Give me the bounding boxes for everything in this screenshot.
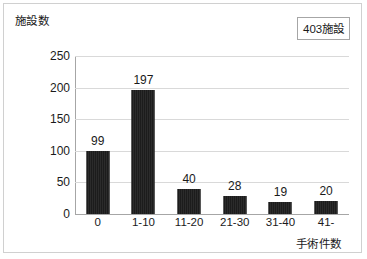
y-axis-tick-label: 0 [30,207,70,221]
chart-frame: 施設数 403施設 050100150200250 9919740281920 … [3,3,362,253]
bar[interactable] [132,90,155,215]
bar-value-label: 99 [91,134,104,148]
bar-value-label: 19 [274,185,287,199]
gridline [75,214,349,215]
bar-slot: 20 [303,56,349,214]
bar[interactable] [315,201,338,214]
plot-area: 9919740281920 [75,56,349,214]
x-axis-title: 手術件数 [296,235,341,251]
bar-value-label: 40 [182,172,195,186]
x-axis-tick-label: 31-40 [258,216,304,228]
y-axis-tick-label: 150 [30,112,70,126]
bar-slot: 19 [258,56,304,214]
y-axis-tick-label: 100 [30,144,70,158]
total-facilities-badge: 403施設 [297,17,350,40]
x-axis-tick-labels: 01-1011-2021-3031-4041- [75,216,349,234]
y-axis-tick-label: 50 [30,175,70,189]
y-axis-tick-label: 200 [30,81,70,95]
x-axis-tick-label: 11-20 [166,216,212,228]
y-axis-tick-label: 250 [30,49,70,63]
y-axis-tick-labels: 050100150200250 [26,56,70,214]
x-axis-tick-label: 0 [75,216,121,228]
bar[interactable] [178,189,201,214]
bar-value-label: 197 [133,73,153,87]
bar-value-label: 28 [228,179,241,193]
bar-value-label: 20 [319,184,332,198]
bar[interactable] [223,196,246,214]
bar[interactable] [86,151,109,214]
y-axis-title: 施設数 [15,12,49,28]
bar-slot: 28 [212,56,258,214]
bar[interactable] [269,202,292,214]
bar-slot: 99 [75,56,121,214]
x-axis-tick-label: 21-30 [212,216,258,228]
x-axis-tick-label: 41- [303,216,349,228]
bar-slot: 197 [121,56,167,214]
x-axis-tick-label: 1-10 [121,216,167,228]
bar-slot: 40 [166,56,212,214]
